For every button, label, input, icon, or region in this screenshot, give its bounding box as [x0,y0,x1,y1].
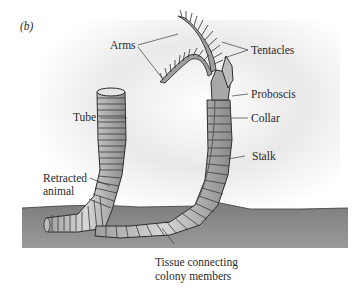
label-arms: Arms [110,39,136,52]
label-tube: Tube [73,111,96,124]
panel-label: (b) [20,20,33,33]
label-retracted-line1: Retracted [43,172,87,185]
label-tissue-line2: colony members [155,270,231,283]
label-tissue-line1: Tissue connecting [155,256,238,269]
label-collar: Collar [251,112,280,125]
diagram-figure: (b) Arms Tentacles Tube Proboscis Collar… [0,0,363,296]
pterobranch-illustration [0,0,363,296]
label-stalk: Stalk [252,150,276,163]
label-retracted-line2: animal [43,185,74,198]
label-proboscis: Proboscis [251,88,296,101]
label-tentacles: Tentacles [251,44,294,57]
